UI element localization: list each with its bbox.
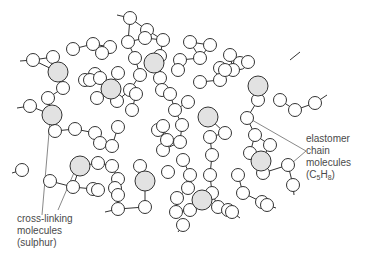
- monomer-unit: [241, 112, 254, 125]
- monomer-unit: [184, 36, 197, 49]
- monomer-unit: [67, 181, 80, 194]
- monomer-unit: [242, 56, 255, 69]
- monomer-unit: [57, 82, 70, 95]
- crosslink-label-line2: molecules: [17, 225, 62, 236]
- monomer-unit: [261, 199, 274, 212]
- elastomer-label-line2: chain: [306, 145, 330, 156]
- monomer-unit: [164, 88, 177, 101]
- monomer-unit: [169, 104, 182, 117]
- monomer-unit: [194, 52, 207, 65]
- monomer-unit: [16, 164, 29, 177]
- sulphur-atom: [101, 79, 121, 99]
- monomer-unit: [129, 52, 142, 65]
- monomer-unit: [69, 123, 82, 136]
- monomer-unit: [44, 175, 57, 188]
- monomer-unit: [122, 36, 135, 49]
- monomer-unit: [112, 121, 125, 134]
- monomer-unit: [289, 104, 302, 117]
- monomer-unit: [134, 69, 147, 82]
- monomer-unit: [94, 137, 107, 150]
- monomer-unit: [157, 120, 170, 133]
- crosslink-label-line3: (sulphur): [17, 237, 56, 248]
- monomer-unit: [177, 219, 190, 232]
- monomer-unit: [287, 179, 300, 192]
- monomer-unit: [171, 192, 184, 205]
- monomer-unit: [182, 182, 195, 195]
- monomer-unit: [232, 169, 245, 182]
- monomer-unit: [204, 131, 217, 144]
- monomer-unit: [112, 189, 125, 202]
- sulphur-atom: [198, 107, 218, 127]
- monomer-unit: [184, 169, 197, 182]
- monomer-unit: [157, 34, 170, 47]
- sulphur-atom: [248, 76, 268, 96]
- monomer-unit: [309, 97, 322, 110]
- sulphur-atom: [48, 62, 68, 82]
- sulphur-atom: [251, 151, 271, 171]
- monomer-unit: [130, 88, 143, 101]
- monomer-unit: [96, 47, 109, 60]
- monomer-unit: [264, 139, 277, 152]
- monomer-unit: [112, 203, 125, 216]
- monomer-unit: [182, 96, 195, 109]
- monomer-unit: [162, 166, 175, 179]
- monomer-unit: [174, 136, 187, 149]
- monomer-unit: [219, 64, 232, 77]
- monomer-unit: [24, 100, 37, 113]
- monomer-unit: [249, 129, 262, 142]
- sulphur-atom: [192, 190, 212, 210]
- monomer-unit: [139, 201, 152, 214]
- monomer-unit: [27, 54, 40, 67]
- monomer-unit: [126, 104, 139, 117]
- monomer-unit: [67, 43, 80, 56]
- monomer-unit: [112, 67, 125, 80]
- sulphur-atom: [70, 156, 90, 176]
- monomer-unit: [106, 140, 119, 153]
- monomer-unit: [177, 154, 190, 167]
- monomer-units: [16, 12, 322, 232]
- monomer-unit: [170, 206, 183, 219]
- monomer-unit: [92, 157, 105, 170]
- monomer-unit: [92, 184, 105, 197]
- elastomer-label-formula: (C5H8): [306, 169, 335, 181]
- monomer-unit: [124, 12, 137, 25]
- monomer-unit: [161, 134, 174, 147]
- sulphur-atom: [42, 105, 62, 125]
- crosslink-label-line1: cross-linking: [17, 213, 73, 224]
- elastomer-label-line1: elastomer: [306, 133, 351, 144]
- crosslink-label: cross-linking molecules (sulphur): [17, 213, 73, 248]
- monomer-unit: [204, 39, 217, 52]
- elastomer-label-line3: molecules: [306, 157, 351, 168]
- monomer-unit: [172, 64, 185, 77]
- monomer-unit: [42, 92, 55, 105]
- monomer-unit: [274, 94, 287, 107]
- monomer-unit: [282, 159, 295, 172]
- monomer-unit: [204, 169, 217, 182]
- sulphur-atom: [135, 171, 155, 191]
- monomer-unit: [176, 119, 189, 132]
- monomer-unit: [194, 76, 207, 89]
- monomer-unit: [237, 187, 250, 200]
- monomer-unit: [206, 149, 219, 162]
- vulcanised-rubber-diagram: elastomer chain molecules (C5H8) cross-l…: [0, 0, 367, 257]
- elastomer-label: elastomer chain molecules (C5H8): [306, 133, 351, 181]
- monomer-unit: [219, 127, 232, 140]
- monomer-unit: [154, 72, 167, 85]
- monomer-unit: [226, 206, 239, 219]
- monomer-unit: [49, 125, 62, 138]
- sulphur-atom: [144, 53, 164, 73]
- monomer-unit: [106, 160, 119, 173]
- monomer-unit: [139, 32, 152, 45]
